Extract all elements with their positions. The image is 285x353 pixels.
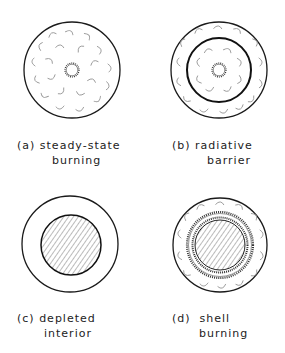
depleted-core: [41, 215, 101, 275]
central-flame-zone: [65, 63, 79, 77]
caption-line1: steady-state: [40, 139, 121, 152]
convection-eddies: [32, 29, 112, 112]
caption-line1: radiative: [195, 139, 253, 152]
caption-tag: (b): [172, 139, 191, 152]
star-outer-boundary: [24, 22, 120, 118]
caption-line1: depleted: [39, 312, 96, 325]
caption-c: (c) depleted interior: [17, 311, 96, 341]
caption-a: (a) steady-state burning: [17, 138, 121, 168]
star-outer-boundary: [171, 22, 267, 118]
caption-tag: (a): [17, 139, 35, 152]
caption-line2: burning: [17, 153, 121, 168]
caption-tag: (d): [172, 312, 191, 325]
panel-c-depleted-interior: [22, 196, 118, 292]
diagram-canvas: [0, 0, 285, 353]
caption-line2: interior: [17, 326, 96, 341]
caption-line1: shell: [200, 312, 231, 325]
caption-b: (b) radiative barrier: [172, 138, 253, 168]
panel-b-radiative-barrier: [171, 22, 267, 118]
caption-tag: (c): [17, 312, 35, 325]
depleted-core: [195, 220, 245, 270]
panel-a-steady-state-burning: [24, 22, 120, 118]
radiative-barrier-ring: [187, 38, 251, 102]
caption-line2: burning: [172, 326, 248, 341]
panel-d-shell-burning: [173, 198, 267, 292]
caption-d: (d) shell burning: [172, 311, 248, 341]
central-flame-zone: [212, 63, 226, 77]
caption-line2: barrier: [172, 153, 253, 168]
